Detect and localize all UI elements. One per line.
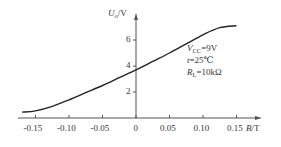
x-tick-label: -0.15 — [24, 124, 43, 133]
x-tick-label: 0.05 — [160, 124, 176, 133]
annotation-value: =9V — [201, 43, 217, 53]
y-tick-label: 4 — [126, 61, 131, 70]
x-tick-label: -0.10 — [57, 124, 76, 133]
x-tick-label: -0.05 — [91, 124, 110, 133]
annotation-value: =10kΩ — [196, 67, 221, 77]
annotation-vcc: VCC=9V — [187, 44, 217, 55]
x-axis-arrow-icon — [255, 116, 262, 120]
y-axis-arrow-icon — [134, 13, 138, 20]
x-tick-label: 0.15 — [227, 124, 243, 133]
y-tick-label: 6 — [126, 35, 131, 44]
annotation-load-resistance: RL=10kΩ — [187, 68, 222, 79]
x-tick-label: 0 — [134, 124, 139, 133]
y-axis-label: Uo/V — [108, 9, 127, 20]
y-tick-label: 2 — [126, 87, 131, 96]
y-label-unit: /V — [118, 8, 127, 18]
x-label-unit: /T — [252, 123, 260, 133]
annotation-temperature: t=25℃ — [187, 56, 214, 65]
x-axis-label: B/T — [246, 124, 260, 133]
annotation-subscript: CC — [193, 47, 202, 54]
x-tick-label: 0.10 — [193, 124, 209, 133]
annotation-value: =25℃ — [190, 55, 214, 65]
